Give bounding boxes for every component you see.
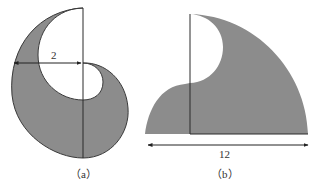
- diagram-canvas: [0, 0, 313, 182]
- figure-a: [12, 8, 128, 158]
- figure-b-shaded-region: [145, 14, 308, 134]
- figure-a-dimension-label: 2: [51, 49, 57, 61]
- figure-b-caption: （b）: [211, 165, 239, 181]
- figure-b-dimension-label: 12: [219, 148, 230, 160]
- figure-a-caption: （a）: [70, 165, 97, 181]
- figure-a-shaded-region: [12, 8, 128, 158]
- figure-b: [145, 14, 308, 145]
